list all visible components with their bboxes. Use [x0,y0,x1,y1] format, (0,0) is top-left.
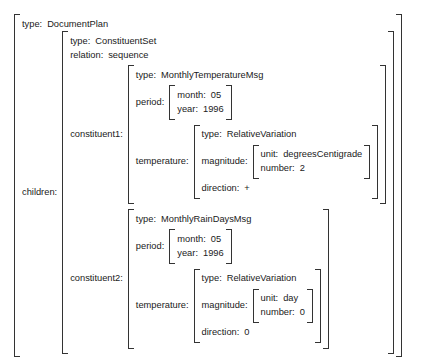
magnitude-matrix-c2: unit: day number: 0 [253,289,313,324]
row-c2-number: number: 0 [261,306,305,320]
attr-type: type: [136,215,161,224]
attr-direction: direction: [202,184,245,193]
row-c1-type: type: MonthlyTemperatureMsg [136,68,378,82]
attr-type: type: [202,130,227,139]
attr-constituent2: constituent2: [70,274,128,283]
row-c2-month: month: 05 [177,232,223,246]
attr-unit: unit: [261,150,284,159]
attr-period: period: [136,242,169,251]
value-month: 05 [211,91,221,100]
value-sequence: sequence [108,51,148,60]
feature-structure-diagram: type: DocumentPlan children: type: Const… [14,14,402,357]
close-bracket-temperature-c2 [315,269,321,343]
attr-temperature: temperature: [136,301,194,310]
row-c2-year: year: 1996 [177,247,223,261]
row-c1-month: month: 05 [177,88,223,102]
row-root-type: type: DocumentPlan [22,17,394,31]
row-root-children: children: type: ConstituentSet relation:… [22,31,394,354]
row-c1-temp-type: type: RelativeVariation [202,128,371,142]
row-cset-relation: relation: sequence [70,49,386,63]
row-c2-temp-type: type: RelativeVariation [202,272,313,286]
close-bracket-constituent1 [380,65,386,204]
value-year: 1996 [203,105,224,114]
row-c1-unit: unit: degreesCentigrade [261,148,363,162]
value-constituent-set: ConstituentSet [95,37,156,46]
attr-type: type: [202,274,227,283]
value-year: 1996 [203,249,224,258]
attr-temperature: temperature: [136,157,194,166]
attr-month: month: [177,91,210,100]
attr-period: period: [136,98,169,107]
attr-year: year: [177,105,203,114]
close-bracket-level2 [388,31,394,354]
row-c1-number: number: 2 [261,162,363,176]
close-bracket-temperature-c1 [372,125,378,199]
value-document-plan: DocumentPlan [47,20,108,29]
attr-month: month: [177,235,210,244]
value-month: 05 [211,235,221,244]
row-c1-year: year: 1996 [177,102,223,116]
close-bracket-period-c2 [226,229,232,264]
value-number: 2 [300,164,305,173]
magnitude-matrix-c1: unit: degreesCentigrade number: 2 [253,145,371,180]
row-c1-temperature: temperature: type: RelativeVariation [136,122,378,201]
value-number: 0 [300,308,305,317]
row-c1-period: period: month: 05 [136,83,378,123]
close-bracket-magnitude-c2 [307,289,313,324]
row-c1-direction: direction: + [202,182,371,196]
value-direction: 0 [244,328,249,337]
value-direction: + [244,184,249,193]
attr-direction: direction: [202,328,245,337]
value-monthly-temperature-msg: MonthlyTemperatureMsg [161,71,263,80]
row-constituent1: constituent1: type: MonthlyTemperatureMs… [70,63,386,207]
document-plan-matrix: type: DocumentPlan children: type: Const… [14,14,402,357]
value-relative-variation: RelativeVariation [227,274,297,283]
row-c2-magnitude: magnitude: unit: day [202,286,313,326]
row-c2-direction: direction: 0 [202,326,313,340]
row-c2-type: type: MonthlyRainDaysMsg [136,212,321,226]
row-c2-unit: unit: day [261,292,305,306]
attr-number: number: [261,308,300,317]
monthly-rain-days-msg-matrix: type: MonthlyRainDaysMsg period: [128,209,329,348]
monthly-temperature-msg-matrix: type: MonthlyTemperatureMsg period: [128,65,386,204]
close-bracket-level1 [396,14,402,357]
attr-relation: relation: [70,51,108,60]
relative-variation-matrix-c1: type: RelativeVariation magnitude: [194,125,379,199]
period-matrix-c1: month: 05 year: 1996 [169,85,231,120]
row-c2-period: period: month: 05 [136,227,321,267]
attr-magnitude: magnitude: [202,157,253,166]
attr-children: children: [22,188,62,197]
constituent-set-matrix: type: ConstituentSet relation: sequence … [62,31,394,354]
value-unit: day [283,294,298,303]
close-bracket-magnitude-c1 [364,145,370,180]
attr-type: type: [70,37,95,46]
value-monthly-rain-days-msg: MonthlyRainDaysMsg [161,215,251,224]
attr-type: type: [136,71,161,80]
row-c1-magnitude: magnitude: unit: deg [202,142,371,182]
value-relative-variation: RelativeVariation [227,130,297,139]
attr-type: type: [22,20,47,29]
attr-constituent1: constituent1: [70,130,128,139]
relative-variation-matrix-c2: type: RelativeVariation magnitude: [194,269,321,343]
value-unit: degreesCentigrade [283,150,362,159]
attr-unit: unit: [261,294,284,303]
row-constituent2: constituent2: type: MonthlyRainDaysMsg [70,207,386,351]
row-cset-type: type: ConstituentSet [70,34,386,48]
row-c2-temperature: temperature: type: RelativeVariation [136,266,321,345]
attr-magnitude: magnitude: [202,301,253,310]
period-matrix-c2: month: 05 year: 1996 [169,229,231,264]
close-bracket-period-c1 [226,85,232,120]
attr-year: year: [177,249,203,258]
close-bracket-constituent2 [323,209,329,348]
attr-number: number: [261,164,300,173]
